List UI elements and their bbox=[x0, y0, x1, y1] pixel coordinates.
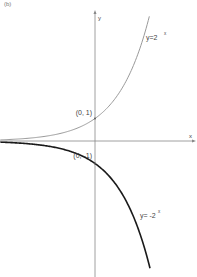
y-axis-arrow bbox=[94, 10, 97, 14]
series-label-exp-positive: y=2 x bbox=[146, 31, 167, 42]
series-line-exp-positive bbox=[0, 16, 149, 140]
series-label-0-text: y=2 bbox=[146, 34, 158, 42]
chart: (b) x y (0, 1) (0, -1) y=2 x y= -2 x bbox=[0, 0, 197, 277]
series-label-1-text: y= -2 bbox=[140, 212, 156, 220]
point-0-1 bbox=[94, 118, 96, 120]
series-line-exp-negative bbox=[0, 142, 150, 268]
series-label-exp-negative: y= -2 x bbox=[140, 209, 161, 220]
y-axis-label: y bbox=[98, 15, 101, 21]
x-axis-label: x bbox=[189, 133, 192, 139]
annotation-0-neg1: (0, -1) bbox=[73, 152, 92, 160]
series-label-1-exponent: x bbox=[158, 209, 161, 214]
corner-label: (b) bbox=[4, 1, 11, 7]
series-label-0-exponent: x bbox=[164, 31, 167, 36]
point-0-neg1 bbox=[94, 163, 96, 165]
x-axis-arrow bbox=[192, 140, 196, 143]
annotation-0-1: (0, 1) bbox=[76, 109, 92, 117]
